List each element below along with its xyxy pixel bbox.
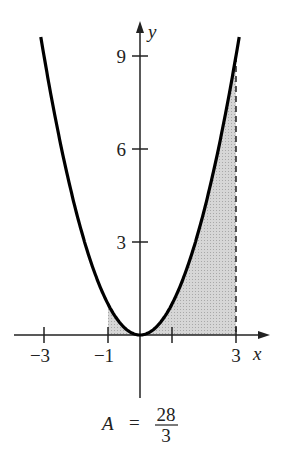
annotation-numerator: 28 <box>157 404 176 425</box>
y-axis-arrow-icon <box>136 21 144 33</box>
y-tick-label: 3 <box>117 232 127 253</box>
y-ticks: 369 <box>117 46 149 253</box>
annotation-lhs: A <box>100 413 114 434</box>
chart: −3−13 369 y x A = 28 3 <box>0 0 291 453</box>
annotation-equals: = <box>129 412 140 433</box>
x-axis-arrow-icon <box>258 331 270 339</box>
annotation-denominator: 3 <box>161 425 171 446</box>
x-tick-label: 3 <box>231 345 241 366</box>
x-tick-label: −1 <box>94 345 114 366</box>
x-axis-label: x <box>252 343 262 364</box>
y-tick-label: 6 <box>117 139 127 160</box>
shaded-area <box>108 56 236 335</box>
y-tick-label: 9 <box>117 46 127 67</box>
x-tick-label: −3 <box>30 345 50 366</box>
area-annotation: A = 28 3 <box>100 404 178 446</box>
y-axis-label: y <box>146 21 157 42</box>
